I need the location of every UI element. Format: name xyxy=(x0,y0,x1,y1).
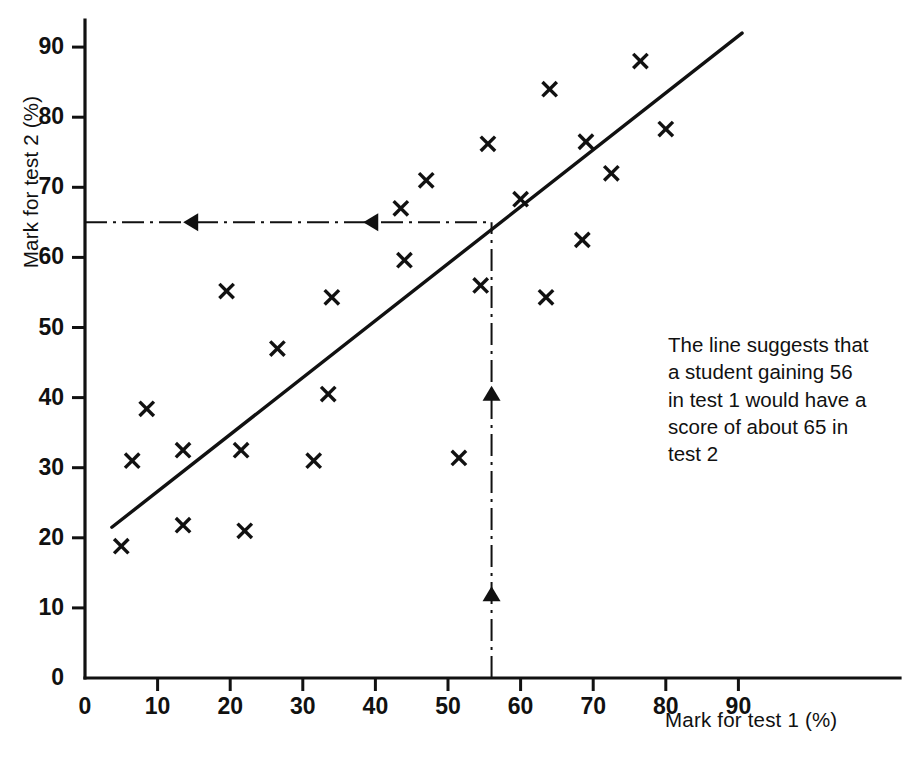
data-point xyxy=(219,284,233,298)
data-point xyxy=(539,290,553,304)
annotation-line: score of about 65 in xyxy=(668,413,916,440)
data-point xyxy=(419,173,433,187)
data-point xyxy=(575,233,589,247)
x-tick-label: 60 xyxy=(508,693,534,719)
data-point xyxy=(579,135,593,149)
x-tick-label: 0 xyxy=(79,693,92,719)
data-point xyxy=(659,122,673,136)
data-point xyxy=(513,192,527,206)
data-point xyxy=(481,137,495,151)
x-tick-label: 30 xyxy=(290,693,316,719)
data-point xyxy=(140,402,154,416)
annotation-line: test 2 xyxy=(668,440,916,467)
guide-arrowhead-left xyxy=(183,213,198,231)
data-point xyxy=(176,518,190,532)
data-point xyxy=(306,453,320,467)
guide-arrowhead-up xyxy=(483,586,501,601)
y-tick-label: 50 xyxy=(38,314,64,340)
guide-arrowhead-left xyxy=(363,213,378,231)
data-point xyxy=(394,201,408,215)
x-axis-ticks: 0102030405060708090 xyxy=(79,678,752,719)
annotation-line: The line suggests that xyxy=(668,331,916,358)
line-of-best-fit xyxy=(112,33,742,527)
annotation-line: in test 1 would have a xyxy=(668,386,916,413)
y-tick-label: 30 xyxy=(38,454,64,480)
data-point xyxy=(542,82,556,96)
y-axis-title: Mark for test 2 (%) xyxy=(19,67,43,297)
data-point xyxy=(114,539,128,553)
annotation-line: a student gaining 56 xyxy=(668,358,916,385)
data-point xyxy=(397,253,411,267)
data-point xyxy=(238,524,252,538)
y-axis-ticks: 0102030405060708090 xyxy=(38,33,85,690)
data-point xyxy=(234,443,248,457)
data-point xyxy=(473,278,487,292)
scatter-plot-figure: 0102030405060708090 0102030405060708090 … xyxy=(0,0,916,773)
data-point-markers xyxy=(114,54,673,553)
x-tick-label: 20 xyxy=(217,693,243,719)
y-tick-label: 40 xyxy=(38,384,64,410)
x-tick-label: 70 xyxy=(580,693,606,719)
y-tick-label: 0 xyxy=(51,664,64,690)
data-point xyxy=(125,453,139,467)
x-tick-label: 10 xyxy=(145,693,171,719)
y-tick-label: 20 xyxy=(38,524,64,550)
x-tick-label: 50 xyxy=(435,693,461,719)
data-point xyxy=(325,290,339,304)
x-tick-label: 40 xyxy=(363,693,389,719)
annotation-text-block: The line suggests that a student gaining… xyxy=(668,331,916,467)
data-point xyxy=(270,341,284,355)
y-tick-label: 10 xyxy=(38,594,64,620)
guide-arrowhead-up xyxy=(483,386,501,401)
data-point xyxy=(176,443,190,457)
y-tick-label: 90 xyxy=(38,33,64,59)
x-axis-title: Mark for test 1 (%) xyxy=(665,708,837,732)
reading-guides xyxy=(85,213,501,678)
data-point xyxy=(321,387,335,401)
data-point xyxy=(604,166,618,180)
data-point xyxy=(633,54,647,68)
data-point xyxy=(452,451,466,465)
